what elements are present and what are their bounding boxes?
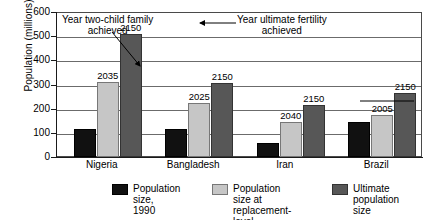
bar-group: 20252150 [165,12,233,157]
bar[interactable] [257,143,279,157]
bar-value-label: 2150 [299,93,329,104]
bar[interactable] [74,129,96,157]
legend-swatch [212,184,228,195]
y-axis-tick-label: 600 [20,8,50,16]
y-axis-tick-mark [51,157,56,158]
chart-container: Population (millions) 600500400300200100… [0,0,440,220]
x-axis-line [56,157,423,158]
annotation-line-1: Year ultimate fertility [237,14,327,25]
bar[interactable] [188,103,210,157]
x-axis-category-label: Iran [239,159,331,170]
x-axis-category-label: Brazil [331,159,423,170]
x-axis-category-label: Bangladesh [148,159,240,170]
y-axis-tick-label: 300 [20,81,50,89]
bar-value-label: 2040 [276,110,306,121]
annotation-line-2: achieved [237,25,327,36]
bar[interactable] [280,122,302,157]
legend-label: Population size, 1990 [133,183,180,216]
annotation-two-child-family: Year two-child family achieved [62,14,153,36]
legend-swatch [332,184,348,195]
bar-value-label: 2035 [93,70,123,81]
chart-legend: Population size, 1990Population size at … [0,181,440,220]
y-axis-tick-labels: 6005004003002001000 [18,0,50,170]
legend-swatch [112,184,128,195]
y-axis-tick-mark [51,133,56,134]
annotation-line-2: achieved [62,25,153,36]
annotation-line-1: Year two-child family [62,14,153,25]
y-axis-tick-label: 500 [20,32,50,40]
bar-value-label: 2005 [367,103,397,114]
y-axis-tick-label: 400 [20,56,50,64]
y-axis-tick-mark [51,85,56,86]
annotation-ultimate-fertility: Year ultimate fertility achieved [237,14,327,36]
x-axis-category-label: Nigeria [56,159,148,170]
bar[interactable] [165,129,187,157]
y-axis-tick-mark [51,36,56,37]
bar[interactable] [303,105,325,157]
y-axis-tick-mark [51,109,56,110]
bar-value-label: 2150 [390,81,420,92]
y-axis-tick-mark [51,60,56,61]
bar[interactable] [371,115,393,157]
y-axis-tick-label: 200 [20,105,50,113]
bar[interactable] [120,34,142,157]
bar-group: 20052150 [348,12,416,157]
y-axis-tick-label: 0 [20,153,50,161]
y-axis-tick-label: 100 [20,129,50,137]
bar[interactable] [394,93,416,157]
legend-label: Ultimate population size [353,183,399,216]
y-axis-tick-mark [51,12,56,13]
bar[interactable] [97,82,119,157]
bar[interactable] [348,122,370,157]
bar[interactable] [211,83,233,157]
bar-value-label: 2150 [207,71,237,82]
bar-value-label: 2025 [184,91,214,102]
legend-label: Population size at replacement-level fer… [233,183,291,220]
